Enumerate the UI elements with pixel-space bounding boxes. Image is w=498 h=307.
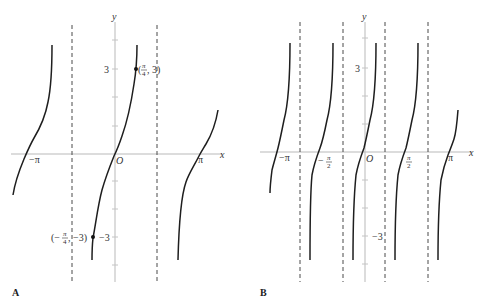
svg-text:, 3): , 3) (147, 64, 160, 76)
svg-text:2: 2 (407, 162, 411, 170)
y-axis-label: y (111, 11, 117, 22)
svg-text:π: π (327, 154, 331, 162)
panel-letter-a: A (12, 287, 20, 298)
tangent-branch-right (178, 110, 218, 260)
y-tick-label-3: 3 (104, 64, 109, 75)
x-tick-label-pi: π (198, 154, 203, 165)
tangent-branch-left (13, 45, 52, 195)
panel-b: y x O −π − π 2 π 2 π 3 −3 B (260, 11, 474, 298)
svg-text:−: − (318, 155, 324, 166)
y-tick-label-neg3: −3 (99, 232, 110, 243)
x-tick-label-pi: π (448, 152, 453, 163)
svg-text:π: π (63, 230, 67, 238)
x-tick-label-neg-half-pi: − π 2 (318, 154, 332, 170)
svg-text:4: 4 (63, 238, 67, 246)
origin-label: O (116, 155, 123, 166)
y-tick-label-3: 3 (355, 63, 360, 74)
svg-text:π: π (407, 154, 411, 162)
x-tick-label-neg-pi: −π (279, 152, 290, 163)
origin-label: O (366, 153, 373, 164)
tangent-branch-1 (270, 43, 290, 193)
x-axis-label: x (468, 147, 474, 158)
point-neg-pi-over-4-neg3 (91, 235, 95, 239)
panel-a: y x O −π π 3 −3 ( π 4 , 3) (− π 4 , −3) … (11, 11, 225, 298)
x-tick-label-neg-pi: −π (29, 154, 40, 165)
y-tick-label-neg3: −3 (372, 231, 383, 242)
panel-letter-b: B (260, 287, 267, 298)
x-axis-label: x (219, 149, 225, 160)
svg-text:2: 2 (327, 162, 331, 170)
point-label-neg-pi-over-4-neg3: (− π 4 , −3) (51, 230, 87, 246)
y-axis-label: y (361, 11, 367, 22)
tangent-branch-5 (438, 110, 458, 260)
x-tick-label-half-pi: π 2 (406, 154, 412, 170)
figure-canvas: y x O −π π 3 −3 ( π 4 , 3) (− π 4 , −3) … (0, 0, 498, 307)
svg-text:(−: (− (51, 232, 60, 244)
svg-text:, −3): , −3) (68, 232, 87, 244)
svg-text:4: 4 (142, 70, 146, 78)
svg-text:π: π (142, 62, 146, 70)
